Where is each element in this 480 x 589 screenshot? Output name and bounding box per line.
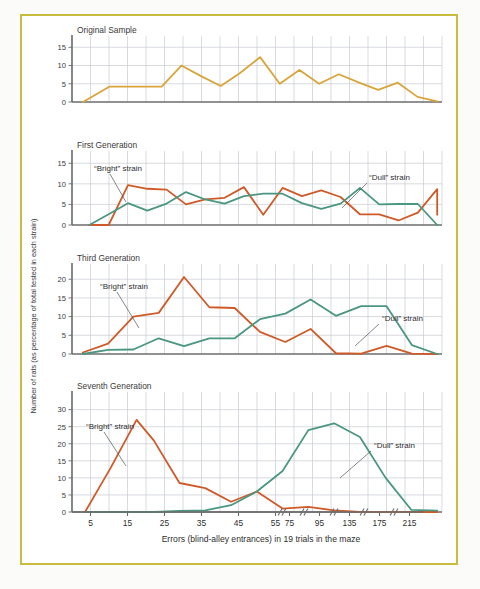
x-axis-tick-label: 35: [197, 518, 207, 528]
panel-2: 051015First Generation: [58, 140, 442, 230]
panel-title-4: Seventh Generation: [77, 381, 152, 391]
series-line: [85, 420, 437, 512]
y-axis-tick-label: 5: [62, 200, 66, 209]
y-axis-tick-label: 5: [62, 491, 66, 500]
annotation-bright-gen1-label: “Bright” strain: [94, 164, 142, 173]
y-axis-tick-label: 10: [58, 61, 66, 70]
y-axis-tick-label: 15: [58, 159, 66, 168]
x-axis-title: Errors (blind-alley entrances) in 19 tri…: [162, 534, 361, 544]
y-axis-tick-label: 20: [58, 275, 66, 284]
y-axis-tick-label: 30: [58, 405, 66, 414]
panel-title-2: First Generation: [77, 140, 137, 150]
annotation-dull-gen3-label: “Dull” strain: [382, 314, 423, 323]
figure-root: 051015Original Sample051015First Generat…: [0, 0, 480, 589]
figure-frame: 051015Original Sample051015First Generat…: [20, 14, 458, 565]
y-axis-tick-label: 20: [58, 440, 66, 449]
y-axis-tick-label: 10: [58, 312, 66, 321]
y-axis-tick-label: 0: [62, 221, 66, 230]
x-axis-tick-label: 55: [271, 518, 281, 528]
x-axis-tick-label: 75: [285, 518, 295, 528]
x-axis-tick-label: 175: [373, 518, 387, 528]
annotation-bright-gen1-leader: [110, 174, 126, 202]
y-axis-tick-label: 10: [58, 474, 66, 483]
y-axis-tick-label: 0: [62, 508, 66, 517]
series-line: [89, 188, 437, 225]
panel-1: 051015Original Sample: [58, 25, 442, 107]
x-axis-tick-label: 25: [160, 518, 170, 528]
annotation-dull-gen7-label: “Dull” strain: [374, 441, 415, 450]
annotation-dull-gen7-leader: [340, 451, 371, 478]
y-axis-title: Number of rats (as percentage of total t…: [29, 218, 38, 413]
y-axis-tick-label: 0: [62, 98, 66, 107]
y-axis-tick-label: 5: [62, 80, 66, 89]
annotation-bright-gen7-label: “Bright” strain: [86, 422, 134, 431]
x-axis-group: 515253545557595135175215: [72, 509, 424, 529]
x-axis-tick-label: 45: [234, 518, 244, 528]
y-axis-tick-label: 25: [58, 423, 66, 432]
annotation-bright-gen3-label: “Bright” strain: [100, 282, 148, 291]
series-line: [83, 57, 437, 102]
x-axis-tick-label: 15: [123, 518, 133, 528]
x-axis-tick-label: 215: [403, 518, 417, 528]
multi-panel-line-chart: 051015Original Sample051015First Generat…: [22, 16, 456, 563]
series-line: [85, 423, 437, 512]
annotation-dull-gen1-label: “Dull” strain: [369, 173, 410, 182]
y-axis-tick-label: 5: [62, 331, 66, 340]
y-axis-tick-label: 15: [58, 457, 66, 466]
x-axis-tick-label: 5: [88, 518, 93, 528]
panel-title-1: Original Sample: [77, 25, 137, 35]
y-axis-tick-label: 15: [58, 294, 66, 303]
y-axis-tick-label: 15: [58, 43, 66, 52]
y-axis-tick-label: 10: [58, 180, 66, 189]
y-axis-tick-label: 0: [62, 350, 66, 359]
x-axis-tick-label: 95: [315, 518, 325, 528]
panel-3: 05101520Third Generation: [58, 253, 442, 359]
panel-title-3: Third Generation: [77, 253, 140, 263]
x-axis-tick-label: 135: [343, 518, 357, 528]
